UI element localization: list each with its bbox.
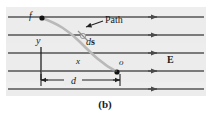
label-ds: ds: [86, 37, 95, 47]
label-field-E: E: [167, 55, 174, 65]
point-o-dot: [114, 69, 119, 74]
label-distance-x: x: [76, 57, 80, 66]
label-ds-s: s: [91, 36, 95, 47]
label-point-o: o: [119, 58, 124, 67]
figure-container: f Path ds y x o E d (b): [0, 0, 210, 117]
label-distance-d: d: [71, 76, 76, 86]
label-point-f: f: [29, 11, 32, 21]
label-path: Path: [105, 15, 123, 25]
point-f-dot: [39, 15, 44, 20]
figure-caption: (b): [0, 99, 210, 110]
label-axis-y: y: [36, 36, 40, 46]
